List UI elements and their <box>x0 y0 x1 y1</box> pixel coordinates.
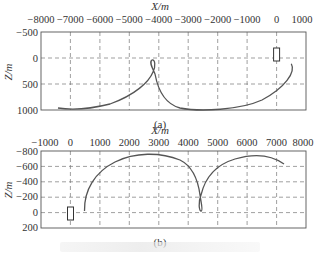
panel-a-xlabel: X/m <box>150 0 169 12</box>
xtick: −2000 <box>204 14 231 25</box>
xtick: −6000 <box>86 14 113 25</box>
ytick: 200 <box>22 222 38 233</box>
panel-a-trajectory <box>58 60 292 110</box>
panel-a-xticks: −8000 −7000 −6000 −5000 −4000 −3000 −200… <box>28 14 313 25</box>
xtick: 7000 <box>266 137 287 148</box>
xtick: 3000 <box>148 137 169 148</box>
panel-b-yticks: −800 −600 −400 −200 0 200 <box>16 146 38 233</box>
xtick: 0 <box>274 14 279 25</box>
ytick: −600 <box>16 161 38 172</box>
figure: X/m −8000 −7000 −6000 −5000 −4000 −3000 … <box>0 0 319 257</box>
panel-b-ylabel: Z/m <box>2 181 14 198</box>
panel-b-xlabel: X/m <box>150 124 169 136</box>
xtick: 2000 <box>119 137 140 148</box>
xtick: −4000 <box>145 14 172 25</box>
panel-a-ylabel: Z/m <box>2 63 14 80</box>
ytick: −800 <box>16 146 38 157</box>
ytick: −400 <box>16 176 38 187</box>
panel-a-yticks: −500 0 500 1000 <box>16 27 38 116</box>
xtick: 1000 <box>89 137 110 148</box>
xtick: −8000 <box>28 14 55 25</box>
ytick: −500 <box>16 27 38 38</box>
xtick: 4000 <box>178 137 199 148</box>
xtick: −1000 <box>234 14 261 25</box>
xtick: 8000 <box>293 137 314 148</box>
panel-b: X/m −1000 0 1000 2000 3000 4000 5000 600… <box>2 124 314 249</box>
panel-b-frame <box>41 151 306 228</box>
ytick: −200 <box>16 191 38 202</box>
xtick: −3000 <box>175 14 202 25</box>
panel-b-grid <box>41 151 306 228</box>
ytick: 0 <box>33 207 38 218</box>
panel-a: X/m −8000 −7000 −6000 −5000 −4000 −3000 … <box>2 0 313 131</box>
panel-b-xticks: −1000 0 1000 2000 3000 4000 5000 6000 70… <box>32 137 314 148</box>
xtick: 1000 <box>292 14 313 25</box>
figure-caption-blurred <box>60 242 260 252</box>
panel-a-marker <box>274 48 280 61</box>
ytick: 0 <box>33 53 38 64</box>
xtick: −7000 <box>57 14 84 25</box>
ytick: 1000 <box>17 105 38 116</box>
xtick: −5000 <box>116 14 143 25</box>
ytick: 500 <box>22 79 38 90</box>
panel-b-trajectory <box>84 154 284 211</box>
xtick: 0 <box>68 137 73 148</box>
panel-b-marker <box>68 207 74 220</box>
xtick: 5000 <box>207 137 228 148</box>
xtick: 6000 <box>237 137 258 148</box>
